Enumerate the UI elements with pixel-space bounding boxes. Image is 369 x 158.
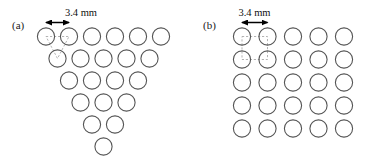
lattice-circle bbox=[95, 94, 112, 111]
lattice-circle bbox=[335, 74, 352, 91]
lattice-circle bbox=[106, 116, 123, 133]
lattice-circle bbox=[284, 97, 301, 114]
lattice-circle bbox=[72, 94, 89, 111]
lattice-circle bbox=[233, 74, 250, 91]
lattice-circle bbox=[118, 50, 135, 67]
lattice-circle bbox=[95, 138, 112, 155]
lattice-circle bbox=[152, 28, 169, 45]
circle-array bbox=[37, 28, 169, 155]
lattice-circle bbox=[83, 28, 100, 45]
lattice-circle bbox=[335, 51, 352, 68]
lattice-circle bbox=[335, 97, 352, 114]
lattice-circle bbox=[129, 28, 146, 45]
lattice-circle bbox=[310, 28, 327, 45]
lattice-circle bbox=[284, 120, 301, 137]
dimension-annotation: 3.4 mm bbox=[46, 7, 97, 23]
lattice-circle bbox=[310, 74, 327, 91]
lattice-circle bbox=[83, 116, 100, 133]
unit-cell-square bbox=[242, 37, 268, 60]
lattice-circle bbox=[310, 51, 327, 68]
dimension-label: 3.4 mm bbox=[65, 7, 97, 18]
lattice-circle bbox=[335, 28, 352, 45]
lattice-circle bbox=[259, 74, 276, 91]
dimension-annotation: 3.4 mm bbox=[238, 7, 270, 23]
lattice-circle bbox=[310, 120, 327, 137]
lattice-circle bbox=[118, 94, 135, 111]
lattice-circle bbox=[60, 72, 77, 89]
lattice-circle bbox=[72, 50, 89, 67]
lattice-circle bbox=[335, 120, 352, 137]
dimension-label: 3.4 mm bbox=[238, 7, 270, 18]
figure-root: (a) 3.4 mm (b) 3.4 mm bbox=[0, 0, 369, 158]
lattice-circle bbox=[284, 51, 301, 68]
lattice-circle bbox=[95, 50, 112, 67]
panel-b-lattice: 3.4 mm bbox=[185, 0, 369, 158]
lattice-circle bbox=[233, 97, 250, 114]
lattice-circle bbox=[106, 72, 123, 89]
lattice-circle bbox=[106, 28, 123, 45]
lattice-circle bbox=[129, 72, 146, 89]
lattice-circle bbox=[233, 120, 250, 137]
lattice-circle bbox=[310, 97, 327, 114]
lattice-circle bbox=[259, 97, 276, 114]
panel-b: (b) 3.4 mm bbox=[185, 0, 369, 158]
circle-array bbox=[233, 28, 352, 137]
lattice-circle bbox=[141, 50, 158, 67]
panel-a-lattice: 3.4 mm bbox=[0, 0, 185, 158]
panel-a: (a) 3.4 mm bbox=[0, 0, 185, 158]
lattice-circle bbox=[49, 50, 66, 67]
lattice-circle bbox=[259, 120, 276, 137]
lattice-circle bbox=[284, 28, 301, 45]
lattice-circle bbox=[284, 74, 301, 91]
lattice-circle bbox=[83, 72, 100, 89]
